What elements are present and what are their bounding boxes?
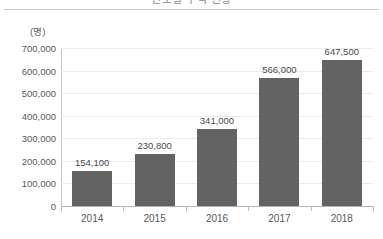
- bar-value-label: 154,100: [75, 157, 109, 168]
- x-axis-tick-mark: [186, 206, 187, 211]
- chart-title: 연도별 누적 현황: [0, 0, 383, 6]
- y-axis-unit-label: (명): [30, 24, 45, 38]
- y-axis-tick-label: 200,000: [22, 155, 56, 166]
- bar-column: 230,800: [123, 48, 185, 206]
- bar-chart-figure: 연도별 누적 현황 (명) 0100,000200,000300,000400,…: [0, 0, 383, 239]
- bar-column: 566,000: [248, 48, 310, 206]
- x-axis-tick-label: 2014: [81, 213, 103, 224]
- x-axis-tick-label: 2016: [206, 213, 228, 224]
- x-axis-tick-label: 2017: [268, 213, 290, 224]
- x-axis-tick-mark: [61, 206, 62, 211]
- header-divider: [4, 9, 379, 10]
- bar: [72, 171, 112, 206]
- bar-column: 154,100: [61, 48, 123, 206]
- plot-area: 0100,000200,000300,000400,000500,000600,…: [61, 48, 373, 206]
- x-axis-tick-label: 2018: [331, 213, 353, 224]
- x-axis-tick-label: 2015: [143, 213, 165, 224]
- bar: [259, 78, 299, 206]
- y-axis-tick-label: 500,000: [22, 88, 56, 99]
- x-axis-tick-mark: [123, 206, 124, 211]
- bar: [135, 154, 175, 206]
- y-axis-tick-label: 0: [51, 201, 56, 212]
- y-axis-tick-label: 600,000: [22, 65, 56, 76]
- bar-value-label: 230,800: [137, 140, 171, 151]
- y-axis-tick-label: 300,000: [22, 133, 56, 144]
- bar: [197, 129, 237, 206]
- x-axis-tick-mark: [311, 206, 312, 211]
- bar: [322, 60, 362, 206]
- bar-column: 647,500: [311, 48, 373, 206]
- x-axis-tick-mark: [373, 206, 374, 211]
- x-axis-line: [61, 206, 374, 207]
- y-axis-tick-label: 100,000: [22, 178, 56, 189]
- bar-value-label: 647,500: [325, 46, 359, 57]
- bar-column: 341,000: [186, 48, 248, 206]
- y-axis-tick-label: 700,000: [22, 43, 56, 54]
- y-axis-tick-label: 400,000: [22, 110, 56, 121]
- x-axis-tick-mark: [248, 206, 249, 211]
- bar-value-label: 566,000: [262, 64, 296, 75]
- chart-title-clipped: 연도별 누적 현황: [0, 0, 383, 7]
- bar-value-label: 341,000: [200, 115, 234, 126]
